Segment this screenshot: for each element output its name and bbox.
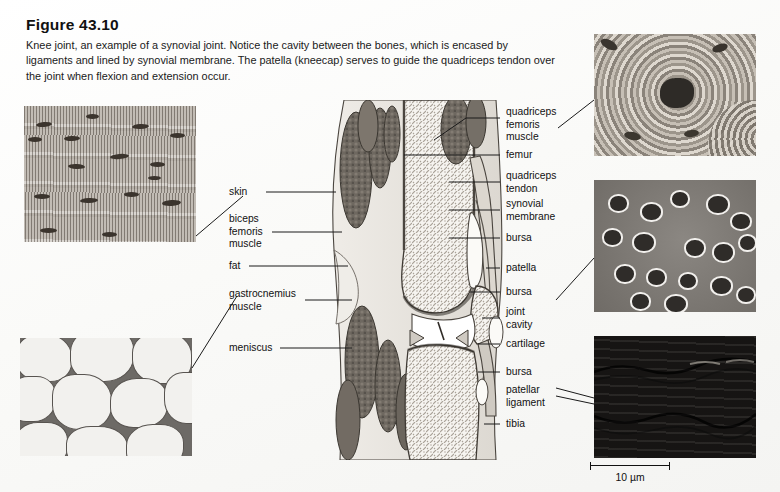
scale-bar: 10 µm [590,462,670,483]
micrograph-skeletal-muscle [24,106,196,242]
nucleus [86,114,99,119]
muscle-striation-texture [24,106,196,242]
nucleus [150,162,165,167]
label-bursa-upper: bursa [506,232,532,245]
chondrocyte [632,232,656,253]
scale-bar-line [590,462,670,470]
figure-caption: Knee joint, an example of a synovial joi… [26,38,556,84]
label-synovial-membrane: synovial membrane [506,198,555,223]
label-quadriceps-femoris-muscle: quadriceps femoris muscle [506,106,556,144]
label-patellar-ligament: patellar ligament [506,384,545,409]
adipocyte [110,378,168,428]
chondrocyte [646,268,667,287]
chondrocyte [712,242,735,263]
leader-cartilage-micrograph [556,258,594,300]
collagen-waves [594,336,756,458]
label-biceps-femoris-muscle: biceps femoris muscle [229,213,263,251]
figure-number: Figure 43.10 [26,16,119,34]
label-gastrocnemius-muscle: gastrocnemius muscle [229,288,296,313]
chondrocyte [630,292,651,311]
nucleus [34,194,50,199]
chondrocyte [710,276,733,296]
micrograph-hyaline-cartilage [594,180,756,312]
micrograph-adipose-tissue [20,338,192,456]
chondrocyte [614,264,636,284]
adipocyte [164,372,192,424]
chondrocyte [664,294,688,312]
nucleus [124,192,139,197]
nucleus [148,176,161,180]
nucleus [170,133,185,138]
tibia-bone [405,345,479,460]
chondrocyte [602,228,623,247]
chondrocyte [730,212,752,231]
adipocyte [52,374,112,430]
leader-patellar-ligament [556,396,594,404]
chondrocyte [736,286,756,304]
scale-bar-tick-left [590,462,591,470]
leader-bone-micrograph [558,100,594,128]
label-cartilage: cartilage [506,338,545,351]
scale-bar-tick-right [669,462,670,470]
label-meniscus: meniscus [229,342,273,355]
label-fat: fat [229,260,240,273]
chondrocyte [678,272,698,290]
nucleus [28,137,42,142]
figure-page: Figure 43.10 Knee joint, an example of a… [0,0,780,492]
chondrocyte [684,238,706,258]
label-joint-cavity: joint cavity [506,306,532,331]
chondrocyte [738,234,756,252]
chondrocyte [608,194,629,213]
adipocyte [20,376,56,422]
leader-tendon-micrograph [556,388,594,398]
knee-joint-illustration [300,100,515,460]
label-bursa-lower: bursa [506,366,532,379]
micrograph-dense-connective-tissue [594,336,756,458]
chondrocyte [706,194,730,215]
label-femur: femur [506,149,532,162]
bursa-infrapatellar [476,379,488,405]
adipocyte [66,426,128,456]
label-quadriceps-tendon: quadriceps tendon [506,170,556,195]
haversian-canal [660,78,694,108]
chondrocyte [640,202,663,222]
label-bursa-mid: bursa [506,286,532,299]
label-tibia: tibia [506,418,525,431]
label-patella: patella [506,262,536,275]
nucleus [40,228,57,233]
adipocyte-group [20,338,192,456]
bursa-prepatellar [489,316,503,348]
micrograph-compact-bone [594,34,756,156]
adipocyte [20,422,68,456]
nucleus [102,232,117,237]
scale-bar-rule [590,465,670,466]
chondrocyte [670,190,690,208]
label-skin: skin [229,186,247,199]
adipocyte [126,424,184,456]
scale-bar-label: 10 µm [590,472,670,483]
